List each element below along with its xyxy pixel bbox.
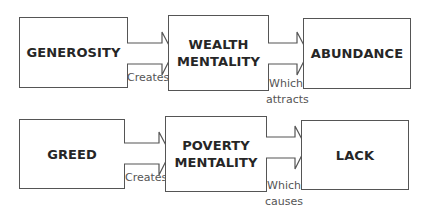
box-wealth-mentality: WEALTH MENTALITY	[168, 15, 269, 91]
box-label: ABUNDANCE	[311, 45, 403, 62]
box-greed: GREED	[19, 119, 125, 189]
box-lack: LACK	[301, 120, 409, 190]
box-label: GENEROSITY	[27, 44, 121, 61]
box-generosity: GENEROSITY	[19, 17, 128, 88]
box-abundance: ABUNDANCE	[303, 18, 411, 89]
arrow-caption: Creates	[125, 171, 165, 185]
arrow-caption: Which attracts	[266, 76, 306, 108]
box-label: LACK	[336, 147, 374, 164]
box-label: POVERTY MENTALITY	[175, 137, 258, 171]
box-label: WEALTH MENTALITY	[177, 36, 260, 70]
arrow-caption: Creates	[127, 71, 167, 85]
box-poverty-mentality: POVERTY MENTALITY	[165, 116, 267, 192]
box-label: GREED	[47, 146, 97, 163]
arrow-caption: Which causes	[264, 178, 304, 210]
